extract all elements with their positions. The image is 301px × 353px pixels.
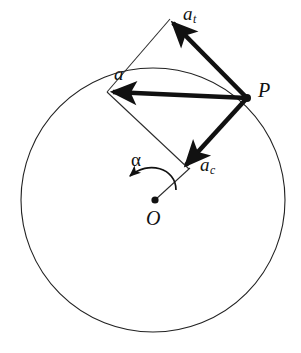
point-p-dot xyxy=(243,94,251,102)
label-angular-acceleration: α xyxy=(131,150,141,169)
resultant-acceleration-vector xyxy=(113,92,247,98)
centripetal-acceleration-vector xyxy=(186,98,247,165)
vector-diagram-svg xyxy=(0,0,301,353)
figure-canvas: at a P ac α O xyxy=(0,0,301,353)
label-center-o: O xyxy=(146,208,160,228)
radius-line xyxy=(155,168,190,200)
parallelogram-side-lower-line xyxy=(107,92,189,169)
label-resultant-acceleration: a xyxy=(114,64,124,83)
label-centripetal-acceleration: ac xyxy=(200,155,215,177)
tangential-acceleration-vector xyxy=(173,23,247,98)
center-o-dot xyxy=(151,196,158,203)
label-point-p: P xyxy=(258,80,270,100)
label-tangential-acceleration: at xyxy=(183,4,196,26)
